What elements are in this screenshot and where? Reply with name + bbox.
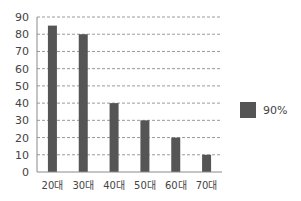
y-tick-label: 50 [15,80,29,93]
y-tick-label: 20 [15,132,29,145]
bar-chart: 0102030405060708090 20대30대40대50대60대70대 9… [0,0,301,201]
bar [202,155,211,172]
bars [48,26,211,172]
legend: 90% [240,102,287,118]
legend-label: 90% [263,104,287,117]
x-tick-label: 20대 [42,180,64,191]
bar [140,120,149,172]
x-tick-label: 50대 [134,180,156,191]
y-tick-label: 80 [15,28,29,41]
bar [48,26,57,172]
gridlines [37,17,222,155]
y-tick-label: 60 [15,63,29,76]
y-tick-label: 30 [15,114,29,127]
x-tick-label: 70대 [196,180,218,191]
x-axis-labels: 20대30대40대50대60대70대 [42,180,218,191]
y-tick-label: 70 [15,45,29,58]
bar [171,138,180,172]
bar [110,103,119,172]
x-tick-label: 60대 [165,180,187,191]
x-tick-label: 30대 [72,180,94,191]
y-tick-label: 0 [22,166,29,179]
bar [79,34,88,172]
y-tick-label: 40 [15,97,29,110]
y-tick-label: 10 [15,149,29,162]
y-axis-ticks: 0102030405060708090 [15,11,29,179]
y-tick-label: 90 [15,11,29,24]
x-tick-label: 40대 [103,180,125,191]
legend-swatch [240,102,256,118]
